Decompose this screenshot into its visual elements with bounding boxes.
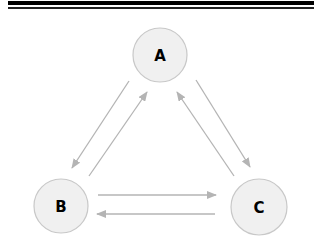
node-a: A [133, 28, 187, 82]
node-b: B [34, 179, 88, 233]
edge-a-to-b [72, 81, 129, 168]
node-a-label: A [154, 47, 166, 65]
node-c-label: C [253, 199, 264, 217]
edge-b-to-a [89, 92, 147, 176]
edges [72, 80, 250, 214]
node-c: C [231, 179, 287, 235]
node-b-label: B [55, 198, 66, 216]
edge-a-to-c [196, 80, 250, 167]
edge-c-to-a [177, 92, 234, 176]
graph-diagram: A B C [0, 0, 314, 246]
